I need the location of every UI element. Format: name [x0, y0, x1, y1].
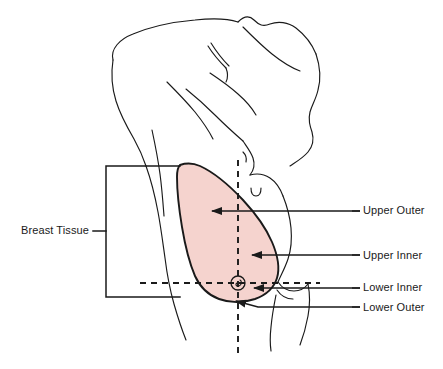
sternal-notch-mark: [243, 152, 246, 162]
finger-notch: [226, 68, 228, 82]
arm-back-edge: [112, 60, 146, 166]
abdomen-right-contour: [300, 284, 310, 345]
upper-arm-inner-line: [167, 82, 213, 139]
under-breast-crease: [277, 290, 293, 299]
label-upper-inner: Upper Inner: [363, 249, 422, 262]
head-right-contour: [290, 54, 320, 166]
leader-lower-outer: [236, 301, 360, 307]
label-lower-inner: Lower Inner: [363, 281, 422, 294]
right-breast-underside: [278, 282, 308, 291]
forearm-lower-edge: [186, 89, 243, 141]
label-upper-outer: Upper Outer: [363, 204, 425, 217]
label-lower-outer: Lower Outer: [363, 301, 425, 314]
abdomen-left-contour: [270, 295, 276, 351]
label-breast-tissue: Breast Tissue: [21, 224, 89, 237]
torso-back-line: [152, 130, 164, 216]
breast-tissue-shape: [177, 164, 278, 302]
neck-jaw-contour: [243, 141, 254, 175]
shoulder-top-contour: [238, 17, 316, 54]
hair-division-line: [243, 27, 300, 71]
hand-detail-upper: [208, 46, 226, 68]
clavicle-contour: [250, 174, 283, 196]
breast-tissue-bracket: [93, 166, 180, 297]
breast-quadrant-diagram: Breast Tissue Upper Outer Upper Inner Lo…: [0, 0, 443, 369]
forearm-inner-fold: [210, 73, 256, 115]
label-tick-group: [352, 211, 360, 307]
chest-v-mark: [251, 188, 261, 196]
right-torso-contour: [278, 196, 291, 282]
